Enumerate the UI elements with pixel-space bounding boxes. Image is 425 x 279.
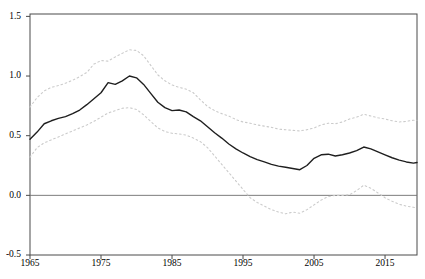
x-tick-label: 2015	[376, 258, 395, 268]
y-tick-label: 1.5	[9, 11, 21, 21]
x-tick-label: 2005	[305, 258, 324, 268]
point-estimate-line	[30, 76, 417, 170]
figure-canvas: 1.51.00.50.0-0.5196519751985199520052015	[0, 0, 425, 279]
y-tick-label: 0.5	[9, 130, 21, 140]
plot-frame	[30, 14, 417, 255]
lower-confidence-band-line	[30, 108, 417, 214]
x-tick-label: 1965	[21, 258, 40, 268]
trend-line-chart: 1.51.00.50.0-0.5196519751985199520052015	[0, 0, 425, 279]
x-tick-label: 1975	[92, 258, 111, 268]
y-tick-label: 0.0	[9, 190, 21, 200]
x-tick-label: 1985	[163, 258, 182, 268]
x-tick-label: 1995	[234, 258, 253, 268]
upper-confidence-band-line	[30, 50, 417, 131]
y-tick-label: 1.0	[9, 70, 21, 80]
y-tick-label: -0.5	[6, 249, 21, 259]
